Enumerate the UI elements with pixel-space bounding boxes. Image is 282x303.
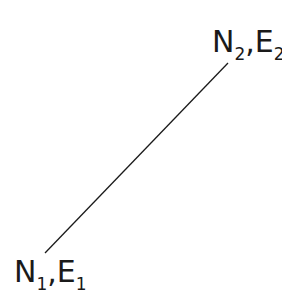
point1-label: N1,E1 [14,257,87,293]
point2-label: N2,E2 [212,27,282,63]
diagram-canvas: N2,E2 N1,E1 [0,0,282,303]
